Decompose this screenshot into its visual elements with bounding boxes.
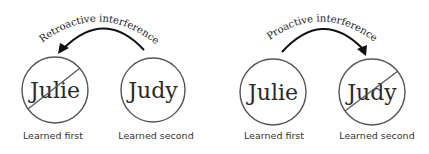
julie-circle-crossed: Julie xyxy=(22,57,88,123)
name-julie: Julie xyxy=(246,80,298,105)
name-judy: Judy xyxy=(345,80,397,105)
proactive-arrow-arc xyxy=(282,29,362,52)
judy-circle-crossed: Judy xyxy=(339,59,405,125)
proactive-arc-label: Proactive interference xyxy=(265,12,380,43)
interference-diagram: Retroactive interference Julie Learned f… xyxy=(0,0,429,154)
retroactive-arrow-arc xyxy=(64,28,144,50)
caption-learned-second: Learned second xyxy=(118,130,193,141)
judy-circle: Judy xyxy=(121,58,185,122)
retroactive-interference-diagram: Retroactive interference Julie Learned f… xyxy=(22,12,194,141)
julie-circle: Julie xyxy=(240,59,306,125)
caption-learned-second: Learned second xyxy=(339,130,414,141)
proactive-interference-diagram: Proactive interference Julie Learned fir… xyxy=(240,12,415,141)
name-judy: Judy xyxy=(126,78,178,103)
name-julie: Julie xyxy=(28,78,80,103)
caption-learned-first: Learned first xyxy=(23,130,83,141)
caption-learned-first: Learned first xyxy=(244,130,304,141)
